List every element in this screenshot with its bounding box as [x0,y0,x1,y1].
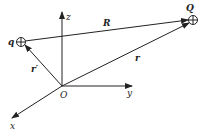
coordinate-diagram: z y x O q Q R r r′ [0,0,203,130]
x-axis [12,86,62,118]
charge-q-icon [17,38,26,47]
vector-R-label: R [102,18,111,28]
charge-Q-label: Q [186,3,194,13]
vector-r-label: r [135,53,141,63]
x-axis-label: x [10,121,15,130]
origin-label: O [60,90,68,100]
z-axis-label: z [65,12,71,22]
vector-r [62,23,189,86]
vector-r-prime-label: r′ [31,64,39,74]
y-axis-label: y [126,88,133,98]
charge-Q-icon [189,16,198,25]
charge-q-label: q [8,37,14,47]
